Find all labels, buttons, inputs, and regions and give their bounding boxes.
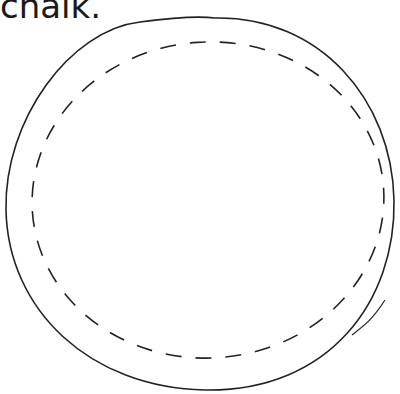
inner-dashed-circle (21, 30, 394, 370)
circle-template-figure (0, 0, 400, 394)
outer-circle (6, 17, 394, 390)
